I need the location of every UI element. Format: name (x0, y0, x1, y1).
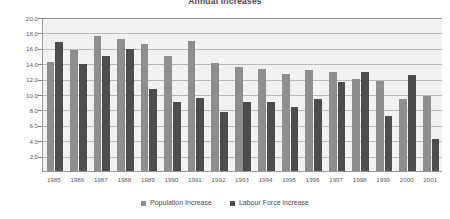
x-tick-label: 1991 (183, 176, 207, 184)
x-tick-label: 1987 (89, 176, 113, 184)
bar-group (325, 18, 349, 171)
plot-area (42, 18, 442, 172)
bar-labour-force-increase (55, 42, 63, 171)
bar-labour-force-increase (361, 72, 369, 171)
bar-labour-force-increase (126, 49, 134, 171)
bar-labour-force-increase (173, 102, 181, 171)
bar-population-increase (188, 41, 196, 171)
bar-labour-force-increase (432, 139, 440, 171)
bar-group (419, 18, 443, 171)
bar-chart: Annual Increases million 20.018.016.014.… (0, 0, 450, 219)
x-tick-label: 1986 (66, 176, 90, 184)
legend-swatch-icon (141, 201, 146, 206)
bar-population-increase (305, 70, 313, 171)
y-tick-label: 6.0 (14, 122, 38, 129)
legend-item[interactable]: Population Increase (141, 199, 212, 207)
bar-group (349, 18, 373, 171)
x-tick-label: 1985 (42, 176, 66, 184)
bar-population-increase (352, 79, 360, 171)
bar-labour-force-increase (408, 75, 416, 171)
bar-population-increase (47, 62, 55, 171)
chart-title: Annual Increases (0, 0, 450, 6)
bar-group (161, 18, 185, 171)
x-tick-label: 1996 (301, 176, 325, 184)
bar-labour-force-increase (243, 102, 251, 171)
y-tick-label: 20.0 (14, 15, 38, 22)
x-tick-label: 2001 (418, 176, 442, 184)
bar-labour-force-increase (220, 112, 228, 171)
legend-swatch-icon (230, 201, 235, 206)
y-tick-label: 10.0 (14, 92, 38, 99)
bar-population-increase (211, 63, 219, 171)
bar-group (255, 18, 279, 171)
y-tick-label: 4.0 (14, 138, 38, 145)
bar-group (137, 18, 161, 171)
bar-group (90, 18, 114, 171)
bar-group (231, 18, 255, 171)
bar-population-increase (399, 99, 407, 171)
bar-group (43, 18, 67, 171)
x-tick-label: 1989 (136, 176, 160, 184)
bar-group (67, 18, 91, 171)
bar-labour-force-increase (196, 98, 204, 171)
y-tick-label: 14.0 (14, 61, 38, 68)
bar-population-increase (282, 74, 290, 171)
bar-labour-force-increase (338, 82, 346, 171)
bar-group (302, 18, 326, 171)
x-tick-label: 1999 (371, 176, 395, 184)
bar-population-increase (329, 72, 337, 171)
legend-item[interactable]: Labour Force increase (230, 199, 309, 207)
x-tick-label: 1988 (113, 176, 137, 184)
x-tick-label: 1997 (324, 176, 348, 184)
bar-labour-force-increase (385, 116, 393, 171)
y-tick-label: 2.0 (14, 153, 38, 160)
y-tick-label: 16.0 (14, 45, 38, 52)
bar-labour-force-increase (291, 107, 299, 171)
x-tick-label: 1994 (254, 176, 278, 184)
x-tick-label: 1998 (348, 176, 372, 184)
legend-label: Population Increase (150, 199, 212, 207)
bar-population-increase (141, 44, 149, 171)
bar-population-increase (94, 36, 102, 171)
x-tick-label: 1992 (207, 176, 231, 184)
legend-label: Labour Force increase (239, 199, 309, 207)
chart-legend: Population IncreaseLabour Force increase (0, 199, 450, 207)
bar-population-increase (164, 56, 172, 172)
y-tick-label: 12.0 (14, 76, 38, 83)
bar-population-increase (235, 67, 243, 171)
bar-labour-force-increase (149, 89, 157, 171)
bar-labour-force-increase (314, 99, 322, 171)
bar-population-increase (117, 39, 125, 171)
bar-population-increase (70, 50, 78, 171)
bar-population-increase (423, 96, 431, 171)
x-tick-label: 1990 (160, 176, 184, 184)
bar-group (278, 18, 302, 171)
y-tick-label: 8.0 (14, 107, 38, 114)
bar-group (396, 18, 420, 171)
x-tick-label: 2000 (395, 176, 419, 184)
bar-group (114, 18, 138, 171)
bar-labour-force-increase (267, 102, 275, 171)
bar-labour-force-increase (102, 56, 110, 171)
bar-population-increase (376, 81, 384, 171)
bar-group (372, 18, 396, 171)
x-tick-label: 1995 (277, 176, 301, 184)
y-tick-label: 18.0 (14, 30, 38, 37)
bar-group (208, 18, 232, 171)
bar-labour-force-increase (79, 64, 87, 171)
bar-population-increase (258, 69, 266, 171)
x-tick-label: 1993 (230, 176, 254, 184)
bar-group (184, 18, 208, 171)
